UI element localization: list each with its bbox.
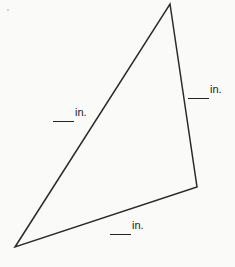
left-side-unit: in.: [75, 106, 87, 118]
bottom-side-label: in.: [110, 223, 144, 235]
right-side-label: in.: [188, 87, 222, 99]
triangle: [15, 4, 197, 247]
right-side-answer-blank[interactable]: [188, 90, 209, 99]
speck: [7, 9, 9, 11]
left-side-label: in.: [53, 110, 87, 122]
left-side-answer-blank[interactable]: [53, 113, 74, 122]
bottom-side-unit: in.: [132, 219, 144, 231]
bottom-side-answer-blank[interactable]: [110, 226, 131, 235]
right-side-unit: in.: [210, 83, 222, 95]
